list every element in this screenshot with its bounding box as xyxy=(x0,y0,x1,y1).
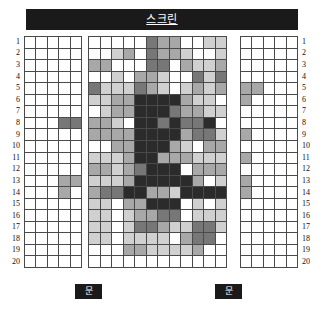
seat-cell[interactable] xyxy=(287,106,298,118)
seat-cell[interactable] xyxy=(170,176,182,188)
seat-cell[interactable] xyxy=(275,222,286,234)
seat-cell[interactable] xyxy=(147,95,159,107)
seat-cell[interactable] xyxy=(216,233,228,245)
seat-cell[interactable] xyxy=(101,95,113,107)
seat-cell[interactable] xyxy=(181,199,193,211)
seat-cell[interactable] xyxy=(181,49,193,61)
seat-cell[interactable] xyxy=(89,95,101,107)
seat-cell[interactable] xyxy=(71,83,82,95)
seat-cell[interactable] xyxy=(252,72,263,84)
seat-cell[interactable] xyxy=(204,37,216,49)
seat-cell[interactable] xyxy=(48,233,59,245)
seat-cell[interactable] xyxy=(89,199,101,211)
seat-cell[interactable] xyxy=(193,153,205,165)
seat-cell[interactable] xyxy=(112,256,124,268)
seat-cell[interactable] xyxy=(170,153,182,165)
seat-cell[interactable] xyxy=(252,141,263,153)
seat-cell[interactable] xyxy=(112,153,124,165)
seat-cell[interactable] xyxy=(204,106,216,118)
seat-cell[interactable] xyxy=(158,199,170,211)
seat-cell[interactable] xyxy=(147,106,159,118)
seat-cell[interactable] xyxy=(124,129,136,141)
seat-cell[interactable] xyxy=(216,49,228,61)
seat-cell[interactable] xyxy=(193,60,205,72)
seat-cell[interactable] xyxy=(135,95,147,107)
seat-cell[interactable] xyxy=(275,164,286,176)
seat-cell[interactable] xyxy=(241,256,252,268)
seat-cell[interactable] xyxy=(71,72,82,84)
seat-cell[interactable] xyxy=(101,118,113,130)
seat-cell[interactable] xyxy=(48,72,59,84)
seat-cell[interactable] xyxy=(264,187,275,199)
seat-cell[interactable] xyxy=(158,153,170,165)
seat-cell[interactable] xyxy=(275,83,286,95)
seat-cell[interactable] xyxy=(89,37,101,49)
seat-cell[interactable] xyxy=(89,60,101,72)
seat-cell[interactable] xyxy=(135,129,147,141)
seat-cell[interactable] xyxy=(216,129,228,141)
seat-cell[interactable] xyxy=(204,141,216,153)
seat-cell[interactable] xyxy=(193,245,205,257)
seat-cell[interactable] xyxy=(204,187,216,199)
seat-cell[interactable] xyxy=(71,164,82,176)
seat-cell[interactable] xyxy=(36,49,47,61)
seat-cell[interactable] xyxy=(101,60,113,72)
seat-cell[interactable] xyxy=(204,129,216,141)
seat-cell[interactable] xyxy=(147,60,159,72)
seat-cell[interactable] xyxy=(252,222,263,234)
seat-cell[interactable] xyxy=(89,256,101,268)
seat-cell[interactable] xyxy=(25,95,36,107)
seat-cell[interactable] xyxy=(25,164,36,176)
seat-cell[interactable] xyxy=(252,129,263,141)
seat-cell[interactable] xyxy=(112,176,124,188)
seat-cell[interactable] xyxy=(287,72,298,84)
seat-cell[interactable] xyxy=(193,129,205,141)
seat-cell[interactable] xyxy=(275,118,286,130)
seat-cell[interactable] xyxy=(25,199,36,211)
seat-cell[interactable] xyxy=(216,187,228,199)
seat-cell[interactable] xyxy=(59,222,70,234)
seat-cell[interactable] xyxy=(181,141,193,153)
seat-cell[interactable] xyxy=(241,118,252,130)
seat-cell[interactable] xyxy=(181,72,193,84)
seat-cell[interactable] xyxy=(216,37,228,49)
door-right[interactable]: 문 xyxy=(215,284,242,299)
seat-cell[interactable] xyxy=(287,83,298,95)
seat-cell[interactable] xyxy=(147,222,159,234)
seat-cell[interactable] xyxy=(112,187,124,199)
seat-cell[interactable] xyxy=(124,72,136,84)
seat-cell[interactable] xyxy=(25,210,36,222)
seat-cell[interactable] xyxy=(36,164,47,176)
seat-cell[interactable] xyxy=(59,60,70,72)
seat-cell[interactable] xyxy=(216,72,228,84)
seat-cell[interactable] xyxy=(275,176,286,188)
seat-cell[interactable] xyxy=(124,199,136,211)
seat-cell[interactable] xyxy=(158,129,170,141)
seat-cell[interactable] xyxy=(216,153,228,165)
seat-cell[interactable] xyxy=(181,187,193,199)
seat-cell[interactable] xyxy=(124,95,136,107)
seat-cell[interactable] xyxy=(181,83,193,95)
seat-cell[interactable] xyxy=(170,83,182,95)
seat-cell[interactable] xyxy=(181,95,193,107)
seat-cell[interactable] xyxy=(275,153,286,165)
seat-cell[interactable] xyxy=(216,245,228,257)
seat-cell[interactable] xyxy=(36,118,47,130)
seat-cell[interactable] xyxy=(71,187,82,199)
seat-cell[interactable] xyxy=(101,222,113,234)
seat-cell[interactable] xyxy=(264,83,275,95)
seat-cell[interactable] xyxy=(204,72,216,84)
seat-cell[interactable] xyxy=(158,37,170,49)
seat-cell[interactable] xyxy=(48,210,59,222)
seat-cell[interactable] xyxy=(275,187,286,199)
seat-cell[interactable] xyxy=(112,164,124,176)
seat-cell[interactable] xyxy=(48,141,59,153)
seat-cell[interactable] xyxy=(71,256,82,268)
seat-cell[interactable] xyxy=(25,233,36,245)
seat-cell[interactable] xyxy=(252,37,263,49)
seat-cell[interactable] xyxy=(59,106,70,118)
seat-cell[interactable] xyxy=(147,233,159,245)
seat-cell[interactable] xyxy=(101,210,113,222)
seat-cell[interactable] xyxy=(89,118,101,130)
seat-cell[interactable] xyxy=(147,72,159,84)
